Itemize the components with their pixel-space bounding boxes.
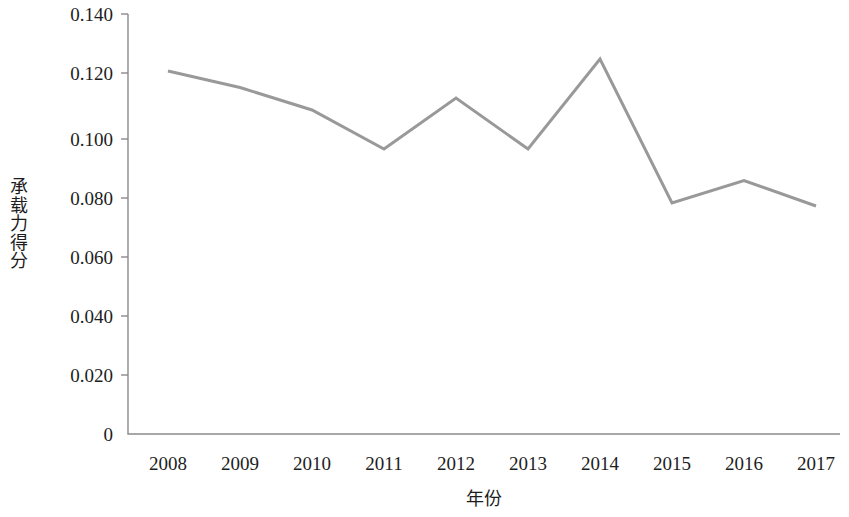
y-axis-title-char-2: 力: [6, 215, 32, 234]
y-tick-label-3: 0.080: [70, 188, 113, 209]
x-tick-label-5: 2013: [509, 453, 547, 474]
x-tick-label-0: 2008: [149, 453, 187, 474]
y-axis-title-char-3: 得: [6, 234, 32, 253]
x-axis-tick-labels: 2008 2009 2010 2011 2012 2013 2014 2015 …: [149, 453, 835, 474]
y-tick-label-4: 0.060: [70, 247, 113, 268]
y-axis-title-char-1: 载: [6, 197, 32, 216]
axis-spine: [128, 14, 840, 434]
y-tick-label-6: 0.020: [70, 365, 113, 386]
y-axis-title-char-4: 分: [6, 252, 32, 271]
series-line-carrying-capacity: [168, 59, 816, 206]
x-tick-label-6: 2014: [581, 453, 620, 474]
x-tick-label-9: 2017: [797, 453, 835, 474]
y-tick-label-7: 0: [104, 424, 114, 445]
y-tick-label-5: 0.040: [70, 306, 113, 327]
y-tick-label-0: 0.140: [70, 4, 113, 25]
x-axis-title: 年份: [466, 489, 502, 509]
x-tick-label-7: 2015: [653, 453, 691, 474]
axis-lines: [121, 14, 840, 434]
x-tick-label-4: 2012: [437, 453, 475, 474]
x-tick-label-3: 2011: [365, 453, 402, 474]
x-tick-label-8: 2016: [725, 453, 763, 474]
line-chart: 承 载 力 得 分 0.140 0.120 0.100 0.080 0.060 …: [0, 0, 849, 517]
y-axis-title-char-0: 承: [6, 178, 32, 197]
x-tick-label-2: 2010: [293, 453, 331, 474]
y-axis-title: 承 载 力 得 分: [6, 178, 32, 271]
y-axis-tick-labels: 0.140 0.120 0.100 0.080 0.060 0.040 0.02…: [70, 4, 113, 445]
y-tick-label-2: 0.100: [70, 129, 113, 150]
y-tick-label-1: 0.120: [70, 63, 113, 84]
chart-canvas: 0.140 0.120 0.100 0.080 0.060 0.040 0.02…: [0, 0, 849, 517]
x-tick-label-1: 2009: [221, 453, 259, 474]
